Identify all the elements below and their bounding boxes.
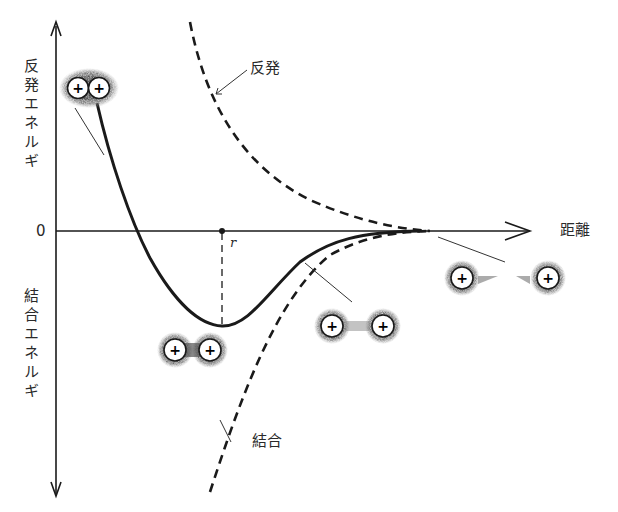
repulsion-curve-label: 反発 xyxy=(250,61,280,76)
plus-icon: + xyxy=(93,80,105,96)
distance-axis-label: 距離 xyxy=(560,223,590,238)
attraction-curve xyxy=(210,231,430,492)
pointer-separated xyxy=(438,237,505,262)
attraction-curve-label: 結合 xyxy=(252,434,282,449)
pointer-repulsion xyxy=(216,70,247,94)
zero-label: 0 xyxy=(36,224,46,239)
plus-icon: + xyxy=(204,342,216,358)
plus-icon: + xyxy=(456,270,468,286)
diagram-canvas: + + + + + + xyxy=(0,0,618,512)
y-axis xyxy=(51,22,61,496)
plus-icon: + xyxy=(326,318,338,334)
atom-pair-separated: + + xyxy=(444,260,566,296)
atom-pair-equilibrium: + + xyxy=(157,332,228,368)
atom-pair-approaching: + + xyxy=(314,308,401,344)
plus-icon: + xyxy=(377,318,389,334)
equilibrium-distance-label: r xyxy=(230,236,236,249)
repulsion-curve xyxy=(190,22,430,231)
atom-pair-compressed: + + xyxy=(59,68,119,108)
pointer-approaching xyxy=(305,263,352,302)
potential-energy-diagram: + + + + + + xyxy=(0,0,618,512)
plus-icon: + xyxy=(169,342,181,358)
net-potential-curve xyxy=(97,103,420,326)
repulsion-energy-axis-label: 反発エネルギ xyxy=(22,58,37,172)
plus-icon: + xyxy=(72,80,84,96)
x-axis xyxy=(56,222,530,240)
plus-icon: + xyxy=(542,270,554,286)
binding-energy-axis-label: 結合エネルギ xyxy=(22,288,37,402)
